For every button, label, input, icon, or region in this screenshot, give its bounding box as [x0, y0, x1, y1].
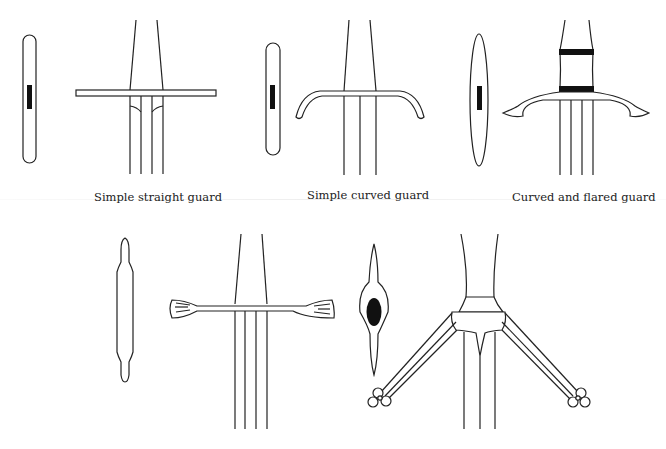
straight-guard-end-view	[23, 35, 36, 163]
sword-guard-diagram: Simple straight guard Simple curved guar…	[0, 0, 666, 449]
left-ring-terminal	[368, 388, 391, 407]
curved-guard-drawing	[266, 20, 424, 175]
curved-guard-side-view	[296, 20, 424, 175]
flared-guard-side-view	[503, 20, 649, 175]
ring-quillon-end-view	[360, 244, 389, 375]
caption-straight-guard: Simple straight guard	[94, 190, 222, 204]
curved-guard-end-view	[266, 43, 280, 155]
ring-quillon-side-view	[368, 234, 590, 429]
ring-quillon-guard-drawing	[360, 234, 590, 429]
flared-ends-side-view	[170, 234, 334, 429]
flared-ends-guard-drawing	[117, 234, 334, 429]
caption-curved-guard: Simple curved guard	[307, 188, 429, 202]
right-ring-terminal	[568, 388, 590, 407]
straight-guard-side-view	[76, 20, 216, 174]
flared-ends-end-view	[117, 238, 133, 382]
flared-guard-end-view	[470, 34, 488, 166]
straight-guard-drawing	[23, 20, 216, 174]
flared-guard-drawing	[470, 20, 649, 175]
caption-flared-guard: Curved and flared guard	[512, 190, 656, 204]
